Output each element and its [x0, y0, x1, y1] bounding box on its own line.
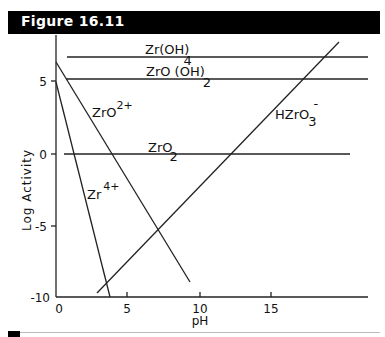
y-tick-label: -10	[30, 291, 50, 305]
chart: 5 0 -5 -10 0 5 10 15 pH Log Activity Zr(…	[0, 0, 385, 337]
label-zr4plus: Zr4+	[87, 180, 119, 202]
label-zro2plus: ZrO2+	[92, 99, 133, 120]
x-axis-label: pH	[192, 314, 209, 328]
y-tick-label: 0	[39, 148, 47, 162]
y-axis-label: Log Activity	[20, 149, 34, 231]
bottom-rule	[8, 332, 380, 333]
label-zrooh2: ZrO (OH)2	[146, 64, 211, 90]
line-zro2plus	[56, 62, 190, 282]
bottom-marker	[8, 331, 20, 337]
x-tick-label: 15	[263, 302, 278, 316]
label-zro2: ZrO2	[148, 140, 178, 164]
x-tick-label: 0	[55, 302, 63, 316]
y-tick-label: 5	[39, 75, 47, 89]
x-tick-label: 5	[123, 302, 131, 316]
y-tick-label: -5	[35, 220, 47, 234]
